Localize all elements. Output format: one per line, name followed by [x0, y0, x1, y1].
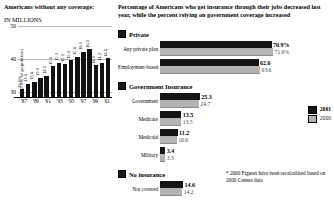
- left-bar: [51, 66, 55, 98]
- left-chart-subtitle: IN MILLIONS: [4, 16, 114, 23]
- bar-value-2000: 14.2: [184, 189, 194, 195]
- bar-2000: 3.3: [160, 154, 165, 162]
- chart-row-bars: 14.614.2: [160, 181, 183, 196]
- bar-value-2000: 24.7: [200, 101, 210, 107]
- left-bar-item: 14.6: [105, 26, 111, 98]
- left-bar: [75, 57, 79, 98]
- left-bar: [38, 78, 42, 98]
- left-xtick-label: '95: [66, 98, 76, 104]
- ytick-30: 30: [4, 90, 16, 95]
- group-heading-private: Private: [118, 30, 149, 38]
- infographic-page: Americans without any coverage: IN MILLI…: [0, 0, 334, 205]
- bar-2001: 70.9%: [160, 41, 272, 48]
- right-chart-title: Percentage of Americans who get insuranc…: [118, 3, 330, 19]
- chart-row-label: Employment-based: [118, 64, 158, 70]
- ytick-50: 50: [4, 24, 16, 29]
- left-xtick-label: '89: [31, 98, 41, 104]
- chart-legend: 2001 2000: [308, 106, 331, 124]
- chart-row-bars: 11.210.6: [160, 129, 178, 144]
- chart-row-label: Medicare: [118, 116, 158, 122]
- left-chart-title: Americans without any coverage:: [4, 3, 114, 11]
- legend-swatch-2001-icon: [308, 106, 317, 114]
- bar-2001: 13.5: [160, 111, 181, 118]
- legend-label-2000: 2000: [320, 116, 331, 122]
- left-chart-panel: Americans without any coverage: IN MILLI…: [0, 0, 115, 205]
- bar-2001: 11.2: [160, 129, 178, 136]
- left-bar-value-label: 16.1: [78, 42, 83, 50]
- left-bar-value-label: 15.4: [66, 51, 71, 59]
- left-xtick-label: '99: [90, 98, 100, 104]
- chart-row-bars: 3.43.3: [160, 147, 165, 162]
- group-heading-label: Private: [129, 31, 149, 38]
- bar-value-2001: 14.6: [185, 182, 196, 188]
- left-chart-xaxis: '87'89'91'93'95'97'99'01: [19, 98, 112, 104]
- left-bar: [69, 60, 73, 98]
- bar-value-2000: 3.3: [167, 155, 174, 161]
- group-heading-label: Government Insurance: [129, 83, 192, 90]
- left-bar-value-label: 15.3: [54, 53, 59, 61]
- left-bar: [81, 52, 85, 98]
- legend-item-2001: 2001: [308, 106, 331, 114]
- bar-value-2001: 13.5: [183, 112, 194, 118]
- left-chart-plot: 50 40 30 12.9% of population 12.9%13.413…: [4, 26, 112, 98]
- chart-row-bars: 13.513.5: [160, 111, 181, 126]
- left-bar: [63, 64, 67, 98]
- left-bar-value-label: 14.2: [97, 53, 102, 61]
- right-chart-panel: Percentage of Americans who get insuranc…: [118, 0, 334, 205]
- left-bar-value-label: 13.6: [29, 72, 34, 80]
- bar-value-2000: 10.6: [178, 137, 188, 143]
- left-bar-value-label: 12.9%: [17, 76, 22, 88]
- bar-value-2001: 25.3: [201, 94, 212, 100]
- left-bar-value-label: 13.4: [23, 74, 28, 82]
- legend-label-2001: 2001: [320, 107, 331, 113]
- left-bar: [57, 63, 61, 98]
- bar-2000: 13.5: [160, 118, 181, 126]
- left-bar-value-label: 15.6: [72, 47, 77, 55]
- left-bar: [100, 63, 104, 98]
- bar-value-2000: 63.6: [262, 67, 272, 73]
- left-xtick-label: '93: [55, 98, 65, 104]
- group-heading-label: No insurance: [129, 171, 165, 178]
- chart-row-bars: 70.9%71.9%: [160, 41, 273, 56]
- bar-2000: 14.2: [160, 188, 182, 196]
- chart-row-label: Government: [118, 98, 158, 104]
- left-xtick-label: '87: [19, 98, 29, 104]
- bar-value-2000: 13.5: [183, 119, 193, 125]
- bar-2000: 10.6: [160, 136, 177, 144]
- chart-row-label: Medicaid: [118, 134, 158, 140]
- group-heading-no-insurance: No insurance: [118, 170, 165, 178]
- left-bar-value-label: 16.1: [85, 40, 90, 48]
- bar-value-2001: 11.2: [179, 130, 189, 136]
- chart-row-label: Military: [118, 152, 158, 158]
- group-swatch-icon: [118, 30, 126, 38]
- left-xtick-label: '97: [78, 98, 88, 104]
- left-bar-value-label: 15.0: [48, 57, 53, 65]
- chart-footnote: * 2000 Figures have been recalculated ba…: [226, 170, 334, 184]
- left-xtick-label: '91: [43, 98, 53, 104]
- group-swatch-icon: [118, 82, 126, 90]
- left-xtick-label: '01: [102, 98, 112, 104]
- bar-value-2001: 70.9%: [273, 42, 290, 48]
- bar-2001: 62.6: [160, 59, 259, 66]
- bar-value-2000: 71.9%: [275, 49, 289, 55]
- left-bar-value-label: 14.1: [91, 55, 96, 63]
- chart-row-label: Any private plan: [118, 46, 158, 52]
- chart-row-label: Not covered: [118, 186, 158, 192]
- bar-2000: 24.7: [160, 100, 199, 108]
- left-bar-value-label: 13.9: [35, 68, 40, 76]
- bar-value-2001: 3.4: [167, 148, 175, 154]
- ytick-40: 40: [4, 57, 16, 62]
- group-heading-government-insurance: Government Insurance: [118, 82, 192, 90]
- legend-item-2000: 2000: [308, 115, 331, 123]
- left-bar-value-label: 15.2: [60, 54, 65, 62]
- bar-2001: 25.3: [160, 93, 200, 100]
- bar-2000: 71.9%: [160, 48, 273, 56]
- bar-2001: 3.4: [160, 147, 165, 154]
- left-bar-value-label: 14.1: [42, 66, 47, 74]
- bar-2000: 63.6: [160, 66, 260, 74]
- group-swatch-icon: [118, 170, 126, 178]
- bar-value-2001: 62.6: [260, 60, 271, 66]
- left-chart-bars: 12.9%13.413.613.914.115.015.315.215.415.…: [19, 26, 111, 98]
- legend-swatch-2000-icon: [308, 115, 317, 123]
- left-bar: [26, 84, 30, 98]
